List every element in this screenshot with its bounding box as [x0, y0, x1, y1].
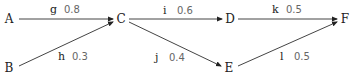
edges-layer: g0.8h0.3i0.6j0.4k0.5l0.5 [19, 3, 337, 66]
edge-weight-label: 0.5 [294, 51, 310, 62]
node-E: E [225, 61, 234, 75]
edge-h: h0.3 [19, 22, 113, 66]
edge-name-label: k [272, 3, 279, 16]
edge-weight-label: 0.5 [286, 4, 302, 15]
graph-svg: g0.8h0.3i0.6j0.4k0.5l0.5 ABCDEF [0, 0, 354, 81]
edge-j: j0.4 [129, 22, 221, 66]
node-D: D [225, 12, 235, 26]
node-A: A [4, 12, 14, 26]
edge-weight-label: 0.8 [64, 4, 80, 15]
node-C: C [116, 12, 125, 26]
nodes-layer: ABCDEF [4, 12, 350, 75]
node-F: F [341, 12, 349, 26]
edge-g: g0.8 [19, 3, 113, 19]
edge-arrow-h [19, 22, 113, 66]
graph-diagram: g0.8h0.3i0.6j0.4k0.5l0.5 ABCDEF [0, 0, 354, 81]
edge-weight-label: 0.4 [169, 52, 185, 63]
edge-weight-label: 0.6 [177, 5, 193, 16]
edge-k: k0.5 [238, 3, 337, 19]
node-B: B [5, 61, 14, 75]
edge-arrow-l [238, 22, 337, 66]
edge-name-label: i [163, 4, 167, 17]
edge-name-label: g [50, 3, 57, 16]
edge-name-label: l [280, 50, 284, 63]
edge-name-label: j [153, 51, 158, 64]
edge-l: l0.5 [238, 22, 337, 66]
edge-i: i0.6 [129, 4, 222, 19]
edge-name-label: h [58, 50, 65, 63]
edge-weight-label: 0.3 [72, 51, 88, 62]
